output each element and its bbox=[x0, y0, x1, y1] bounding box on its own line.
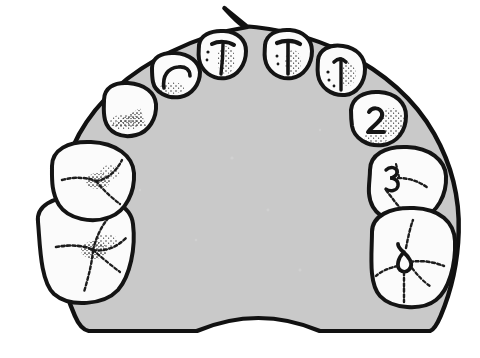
tooth-upper-left-first-molar bbox=[52, 142, 134, 220]
tooth-upper-right-lateral-incisor bbox=[318, 46, 365, 95]
tooth-crown-outline bbox=[371, 208, 455, 307]
tooth-upper-left-canine bbox=[104, 83, 156, 136]
tooth-upper-right-canine bbox=[351, 92, 406, 145]
dental-arch-illustration: Occlusal view of maxillary dental arch H… bbox=[0, 0, 480, 358]
tooth-upper-right-central-incisor bbox=[265, 30, 312, 78]
tooth-upper-left-central-incisor bbox=[199, 31, 246, 78]
arch-drawing-canvas bbox=[0, 0, 480, 358]
tooth-upper-left-lateral-incisor bbox=[152, 53, 200, 97]
tooth-upper-right-second-molar bbox=[371, 208, 455, 307]
